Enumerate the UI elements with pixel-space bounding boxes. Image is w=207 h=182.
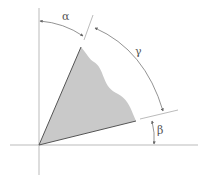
angle-diagram: α γ β	[0, 0, 207, 182]
alpha-label: α	[62, 10, 70, 23]
beta-arc	[152, 121, 154, 144]
apex-extension-line	[84, 15, 93, 40]
base-extension-line	[140, 110, 178, 119]
gamma-label: γ	[135, 45, 142, 58]
wedge-shape	[39, 47, 136, 145]
beta-label: β	[157, 124, 163, 137]
alpha-arc	[40, 21, 83, 36]
